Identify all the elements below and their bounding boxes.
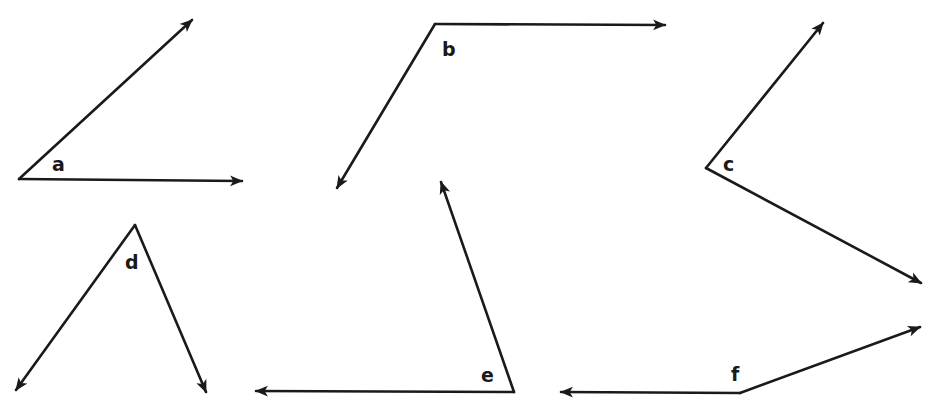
ray-b-2-arrow-icon xyxy=(337,24,435,188)
angle-f xyxy=(561,327,920,393)
angle-label-c: c xyxy=(723,155,734,174)
ray-d-2-arrow-icon xyxy=(135,225,206,392)
ray-a-2-arrow-icon xyxy=(19,179,242,181)
ray-d-1-arrow-icon xyxy=(16,225,135,390)
ray-c-2-arrow-icon xyxy=(706,168,921,283)
ray-a-1-arrow-icon xyxy=(19,20,192,179)
ray-e-1-arrow-icon xyxy=(441,182,514,392)
ray-f-1-arrow-icon xyxy=(740,327,920,393)
ray-f-2-arrow-icon xyxy=(561,392,740,393)
angle-b xyxy=(337,24,665,188)
ray-e-2-arrow-icon xyxy=(256,391,514,392)
angle-label-f: f xyxy=(731,365,739,384)
angles-diagram xyxy=(0,0,935,407)
angle-label-e: e xyxy=(481,366,494,385)
angle-e xyxy=(256,182,514,392)
angle-label-b: b xyxy=(442,40,456,59)
angle-d xyxy=(16,225,206,392)
angle-c xyxy=(706,23,921,283)
angle-label-d: d xyxy=(125,253,139,272)
angle-label-a: a xyxy=(52,155,65,174)
ray-b-1-arrow-icon xyxy=(435,24,665,25)
ray-c-1-arrow-icon xyxy=(706,23,823,168)
